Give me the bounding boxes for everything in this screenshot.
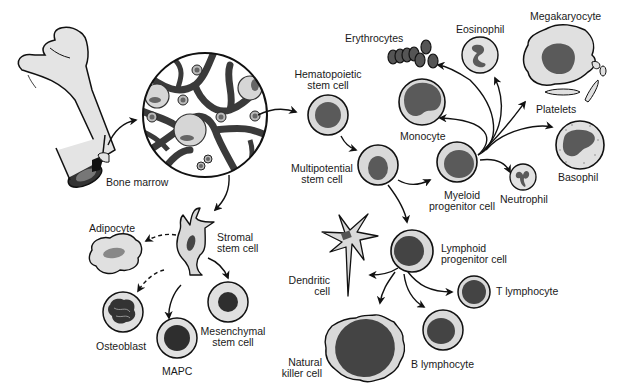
lymphoid-branch-arrows [370,268,452,307]
monocyte-icon [399,79,445,125]
label-stromal-stem-cell: Stromal stem cell [217,232,258,254]
stromal-stem-cell-icon [177,208,214,275]
adipocyte-icon [89,234,141,274]
marrow-magnified-icon [140,50,275,180]
label-mesenchymal-stem-cell: Mesenchymal stem cell [200,326,266,348]
femur-bone-icon [18,27,115,191]
neutrophil-icon [510,164,536,190]
label-dendritic-cell: Dendritic cell [286,275,330,297]
lymphoid-progenitor-cell-icon [391,230,433,272]
label-neutrophil: Neutrophil [500,194,548,205]
arrow-to-lymphoid [388,185,407,222]
arrow-to-myeloid [398,180,430,185]
label-erythrocytes: Erythrocytes [345,33,403,44]
arrow-hsc-to-multipotential [341,136,356,150]
megakaryocyte-icon [524,25,600,86]
mapc-icon [157,318,197,358]
label-monocyte: Monocyte [400,131,446,142]
erythrocytes-icon [388,40,438,68]
label-eosinophil: Eosinophil [456,24,504,35]
multipotential-stem-cell-icon [358,145,398,185]
label-osteoblast: Osteoblast [96,341,146,352]
label-bone-marrow: Bone marrow [106,177,168,188]
label-natural-killer-cell: Natural killer cell [280,357,322,379]
label-platelets: Platelets [536,104,576,115]
label-megakaryocyte: Megakaryocyte [530,11,601,22]
mesenchymal-stem-cell-icon [208,282,248,322]
eosinophil-icon [462,37,498,73]
t-lymphocyte-icon [458,276,490,308]
label-mapc: MAPC [162,366,192,377]
arrow-marrow-to-stromal [215,175,229,210]
b-lymphocyte-icon [423,310,463,350]
label-lymphoid-progenitor-cell: Lymphoid progenitor cell [441,243,507,265]
osteoblast-icon [103,292,143,332]
myeloid-progenitor-cell-icon [437,142,477,182]
label-myeloid-progenitor-cell: Myeloid progenitor cell [422,190,502,212]
hematopoiesis-diagram: Bone marrow Hematopoietic stem cell Mult… [0,0,623,389]
label-b-lymphocyte: B lymphocyte [411,359,474,370]
label-adipocyte: Adipocyte [89,223,135,234]
dendritic-cell-icon [322,214,378,296]
basophil-icon [556,121,604,169]
hematopoietic-stem-cell-icon [308,95,348,135]
label-basophil: Basophil [558,172,598,183]
label-hematopoietic-stem-cell: Hematopoietic stem cell [290,69,366,91]
label-t-lymphocyte: T lymphocyte [496,286,558,297]
natural-killer-cell-icon [325,310,404,385]
label-multipotential-stem-cell: Multipotential stem cell [284,163,360,185]
